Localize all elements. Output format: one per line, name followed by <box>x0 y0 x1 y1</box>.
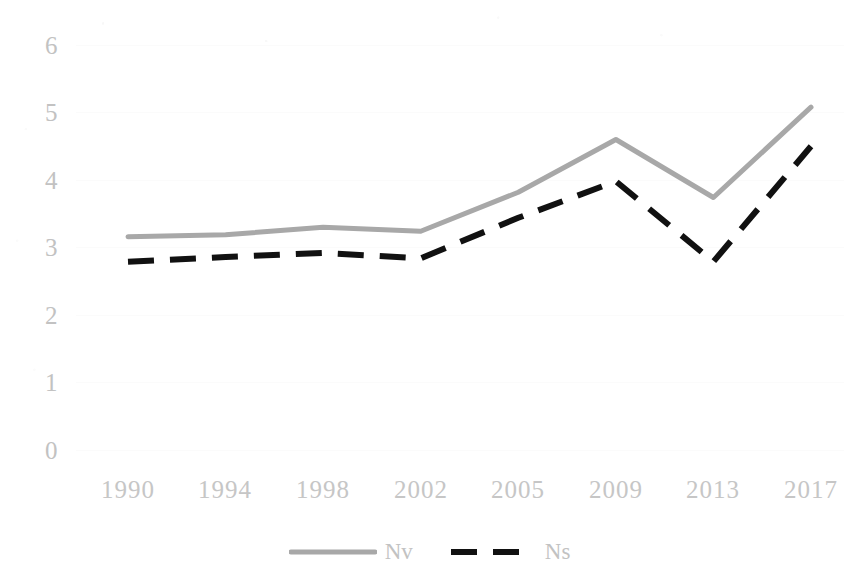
series-line-ns <box>128 146 811 261</box>
legend-entry-ns: Ns <box>449 540 571 563</box>
series-line-nv <box>128 107 811 237</box>
solid-line-swatch-icon <box>289 545 377 559</box>
legend-label-ns: Ns <box>545 540 571 563</box>
line-chart: 6 5 4 3 2 1 0 1990 1994 1998 2002 2005 2… <box>0 0 859 587</box>
series-layer <box>0 0 859 587</box>
chart-legend: Nv Ns <box>0 540 859 563</box>
legend-entry-nv: Nv <box>289 540 413 563</box>
legend-label-nv: Nv <box>385 540 413 563</box>
plot-area: 6 5 4 3 2 1 0 1990 1994 1998 2002 2005 2… <box>0 0 859 587</box>
dashed-line-swatch-icon <box>449 545 537 559</box>
